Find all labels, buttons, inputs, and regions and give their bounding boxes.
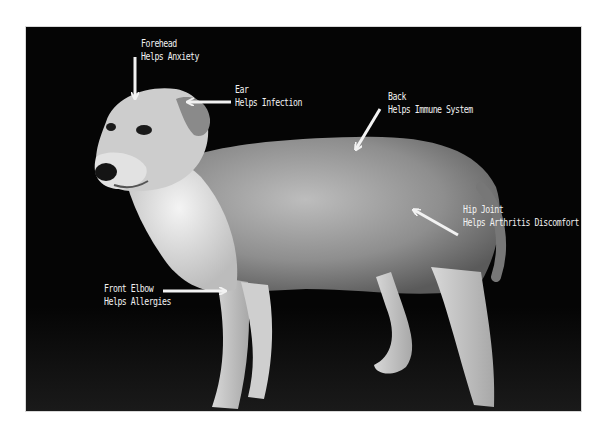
annotation-front-elbow: Front Elbow Helps Allergies	[104, 282, 171, 308]
annotation-forehead: Forehead Helps Anxiety	[141, 37, 199, 63]
hip-benefit-label: Helps Arthritis Discomfort	[463, 216, 579, 229]
back-benefit-label: Helps Immune System	[388, 103, 473, 116]
back-part-label: Back	[388, 90, 473, 103]
elbow-part-label: Front Elbow	[104, 282, 171, 295]
elbow-benefit-label: Helps Allergies	[104, 295, 171, 308]
annotation-ear: Ear Helps Infection	[235, 83, 302, 109]
forehead-benefit-label: Helps Anxiety	[141, 50, 199, 63]
annotation-back: Back Helps Immune System	[388, 90, 473, 116]
annotation-hip-joint: Hip Joint Helps Arthritis Discomfort	[463, 203, 579, 229]
forehead-part-label: Forehead	[141, 37, 199, 50]
ear-part-label: Ear	[235, 83, 302, 96]
dog-photo: Forehead Helps Anxiety Ear Helps Infecti…	[26, 27, 581, 411]
ear-benefit-label: Helps Infection	[235, 96, 302, 109]
hip-part-label: Hip Joint	[463, 203, 579, 216]
